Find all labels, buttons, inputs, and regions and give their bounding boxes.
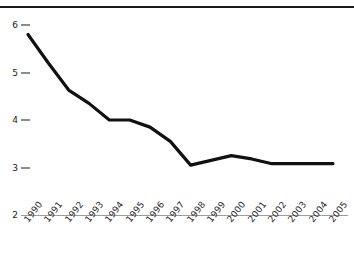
series-line-1 <box>28 35 333 166</box>
x-axis: 1990199119921993199419951996199719981999… <box>0 215 354 253</box>
line-chart: 6 5 4 3 2 199019911992199319941995199619… <box>0 0 354 253</box>
